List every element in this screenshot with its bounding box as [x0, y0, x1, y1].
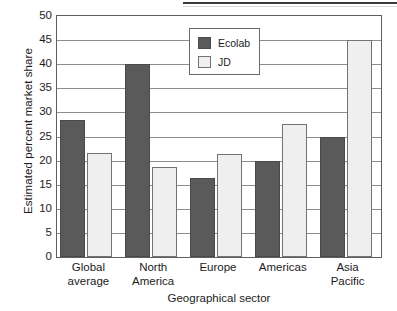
gridline-35 — [57, 88, 381, 89]
bar-ecolab-global-average — [60, 120, 85, 257]
page-top-rule — [183, 2, 397, 4]
y-tick-label-30: 30 — [6, 106, 52, 118]
bar-jd-europe — [217, 154, 242, 257]
bar-ecolab-americas — [255, 161, 280, 257]
y-tick-label-15: 15 — [6, 179, 52, 191]
x-tick-label-europe: Europe — [186, 261, 251, 275]
legend-entry-ecolab: Ecolab — [198, 36, 250, 50]
gridline-30 — [57, 112, 381, 113]
legend-swatch-ecolab — [198, 37, 211, 49]
x-tick-line1: Global — [72, 261, 105, 273]
bar-ecolab-europe — [190, 178, 215, 258]
bar-ecolab-north-america — [125, 64, 150, 257]
y-axis-tick-labels: 05101520253035404550 — [0, 15, 52, 258]
page-top-rule-faint — [183, 6, 397, 7]
x-axis-tick-labels: GlobalaverageNorthAmericaEuropeAmericasA… — [56, 261, 382, 291]
bar-chart-figure: Estimated percent market share 051015202… — [0, 0, 397, 311]
x-tick-line1: Asia — [336, 261, 358, 273]
x-tick-line1: North — [139, 261, 167, 273]
x-tick-label-north-america: NorthAmerica — [121, 261, 186, 288]
bar-jd-asia-pacific — [347, 40, 372, 257]
x-tick-label-global-average: Globalaverage — [56, 261, 121, 288]
y-tick-label-50: 50 — [6, 10, 52, 22]
x-tick-line1: Europe — [199, 261, 236, 273]
bar-jd-global-average — [87, 153, 112, 257]
chart-legend: Ecolab JD — [189, 28, 260, 75]
x-tick-line1: Americas — [259, 261, 307, 273]
x-tick-label-americas: Americas — [250, 261, 315, 275]
x-tick-label-asia-pacific: AsiaPacific — [315, 261, 380, 288]
legend-label-ecolab: Ecolab — [218, 38, 250, 49]
legend-swatch-jd — [198, 56, 211, 68]
y-tick-label-35: 35 — [6, 82, 52, 94]
bar-jd-americas — [282, 124, 307, 257]
y-tick-label-10: 10 — [6, 203, 52, 215]
x-tick-line2: America — [121, 275, 186, 289]
y-tick-label-45: 45 — [6, 34, 52, 46]
y-tick-label-25: 25 — [6, 131, 52, 143]
legend-label-jd: JD — [218, 57, 231, 68]
x-axis-title: Geographical sector — [55, 292, 383, 304]
bar-jd-north-america — [152, 167, 177, 257]
y-tick-label-5: 5 — [6, 227, 52, 239]
x-tick-line2: Pacific — [315, 275, 380, 289]
y-tick-label-20: 20 — [6, 155, 52, 167]
y-tick-label-40: 40 — [6, 58, 52, 70]
x-tick-line2: average — [56, 275, 121, 289]
legend-entry-jd: JD — [198, 55, 231, 69]
bar-ecolab-asia-pacific — [320, 137, 345, 258]
y-tick-label-0: 0 — [6, 251, 52, 263]
